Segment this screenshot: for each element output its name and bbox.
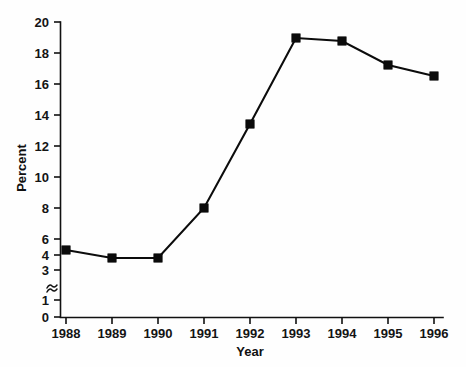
x-axis-title: Year: [236, 344, 263, 359]
data-point-1992: [246, 120, 254, 128]
x-tick-label-1989: 1989: [98, 326, 127, 341]
y-tick-label-12: 12: [35, 139, 49, 154]
data-point-1991: [200, 204, 208, 212]
y-tick-label-4: 4: [42, 248, 50, 263]
x-tick-label-1991: 1991: [190, 326, 219, 341]
y-tick-label-18: 18: [35, 46, 49, 61]
y-tick-label-6: 6: [42, 232, 49, 247]
data-point-1994: [338, 37, 346, 45]
x-tick-label-1988: 1988: [52, 326, 81, 341]
data-point-1989: [108, 254, 116, 262]
x-tick-label-1993: 1993: [282, 326, 311, 341]
data-point-1990: [154, 254, 162, 262]
chart-canvas: 20 18 16 14 12 10 8 6 4 3 1 0 1988: [0, 0, 466, 367]
y-tick-label-8: 8: [42, 201, 49, 216]
y-tick-label-14: 14: [35, 108, 50, 123]
x-tick-label-1995: 1995: [374, 326, 403, 341]
x-tick-label-1990: 1990: [144, 326, 173, 341]
y-tick-label-10: 10: [35, 170, 49, 185]
chart-background: [0, 0, 466, 367]
x-tick-label-1994: 1994: [328, 326, 358, 341]
x-tick-label-1992: 1992: [236, 326, 265, 341]
y-tick-label-3: 3: [42, 263, 49, 278]
y-tick-label-0: 0: [42, 310, 49, 325]
data-point-1988: [62, 246, 70, 254]
y-tick-label-16: 16: [35, 77, 49, 92]
y-tick-label-1: 1: [42, 293, 49, 308]
x-tick-label-1996: 1996: [420, 326, 449, 341]
y-axis-title: Percent: [14, 143, 29, 191]
data-point-1993: [292, 34, 300, 42]
data-point-1995: [384, 61, 392, 69]
line-chart: 20 18 16 14 12 10 8 6 4 3 1 0 1988: [0, 0, 466, 367]
y-tick-label-20: 20: [35, 15, 49, 30]
data-point-1996: [430, 72, 438, 80]
